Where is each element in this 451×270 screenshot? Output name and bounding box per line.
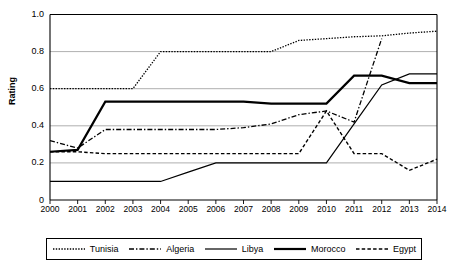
series-line-algeria [50, 39, 382, 148]
legend-item-morocco[interactable]: Morocco [273, 244, 346, 254]
legend-label: Algeria [166, 244, 194, 254]
legend-label: Egypt [393, 244, 416, 254]
legend-swatch-icon [273, 245, 307, 253]
legend-item-algeria[interactable]: Algeria [128, 244, 194, 254]
legend-swatch-icon [355, 245, 389, 253]
series-line-morocco [50, 76, 437, 152]
legend-label: Morocco [311, 244, 346, 254]
x-tick-label: 2014 [420, 204, 451, 214]
legend-item-libya[interactable]: Libya [204, 244, 264, 254]
chart-legend: TunisiaAlgeriaLibyaMoroccoEgypt [46, 238, 422, 260]
legend-label: Libya [242, 244, 264, 254]
legend-swatch-icon [52, 245, 86, 253]
legend-item-egypt[interactable]: Egypt [355, 244, 416, 254]
legend-swatch-icon [204, 245, 238, 253]
legend-item-tunisia[interactable]: Tunisia [52, 244, 119, 254]
series-line-egypt [50, 111, 437, 170]
series-line-tunisia [50, 31, 437, 89]
legend-swatch-icon [128, 245, 162, 253]
legend-label: Tunisia [90, 244, 119, 254]
